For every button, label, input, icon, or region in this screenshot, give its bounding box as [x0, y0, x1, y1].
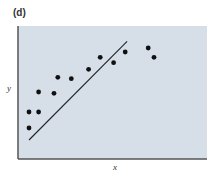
data-point: [55, 75, 60, 80]
y-axis-label: y: [7, 83, 11, 93]
data-point: [111, 60, 116, 65]
data-point: [36, 110, 41, 115]
data-point: [123, 50, 128, 55]
data-point: [36, 90, 41, 95]
data-point: [86, 67, 91, 72]
data-point: [27, 126, 32, 131]
plot-background: [18, 26, 207, 159]
data-point: [69, 76, 74, 81]
data-point: [152, 55, 157, 60]
data-point: [27, 110, 32, 115]
data-point: [52, 91, 57, 96]
data-point: [146, 46, 151, 51]
x-axis-label: x: [113, 162, 117, 172]
data-point: [98, 55, 103, 60]
scatter-plot: [0, 0, 212, 179]
